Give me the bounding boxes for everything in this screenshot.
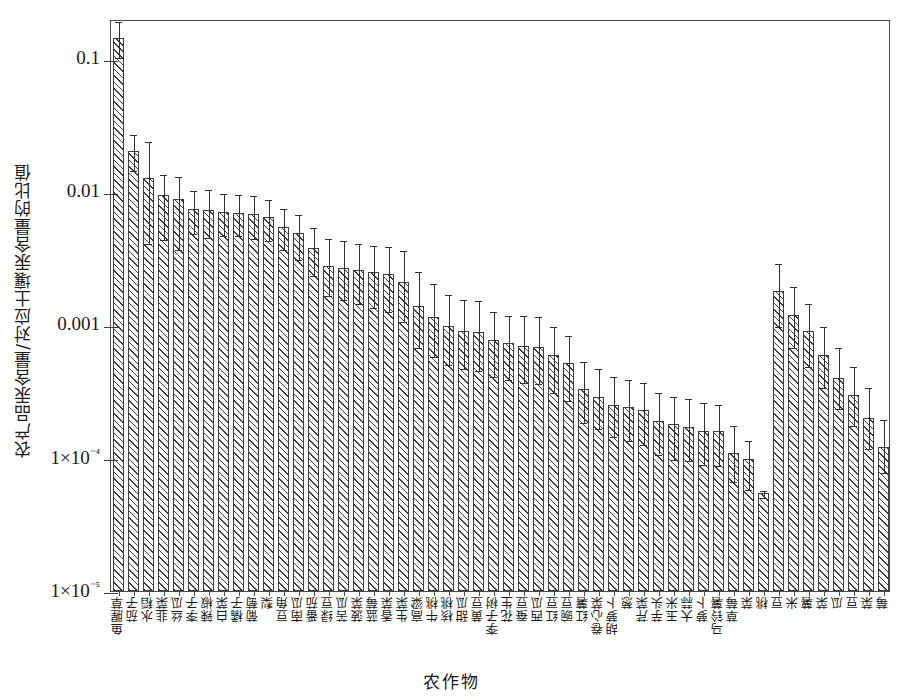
x-category-label: 鱼腥草 [112,596,125,635]
error-bar-cap-lower [775,327,782,328]
bar [428,317,440,591]
error-bar-cap-lower [865,449,872,450]
error-bar-cap-upper [760,491,767,492]
bar [233,213,245,591]
error-bar-cap-upper [550,327,557,328]
error-bar-cap-lower [430,357,437,358]
error-bar-cap-lower [625,441,632,442]
x-category-label: 西瓜 [532,596,545,622]
error-bar-cap-upper [325,239,332,240]
error-bar-cap-upper [715,405,722,406]
error-bar-line [539,317,540,384]
error-bar-cap-upper [130,135,137,136]
error-bar-line [704,403,705,465]
x-category-label: 李子树 [487,596,500,635]
error-bar-line [269,200,270,241]
x-category-label: 豆 [772,596,785,609]
error-bar-cap-lower [850,426,857,427]
x-category-label: 茄子 [127,596,140,622]
error-bar-cap-lower [295,260,302,261]
x-category-label: 芋头 [652,596,665,622]
bar [263,217,275,591]
x-category-label: 蚕豆 [517,596,530,622]
error-bar-cap-lower [220,236,227,237]
error-bar-cap-lower [685,461,692,462]
x-category-label: 菜 [862,596,875,609]
error-bar-cap-upper [850,367,857,368]
error-bar-cap-lower [670,460,677,461]
x-category-label: 红豆 [547,596,560,622]
error-bar-cap-upper [835,348,842,349]
bar [803,331,815,591]
error-bar-cap-lower [250,239,257,240]
x-category-label: 卷心菜 [592,596,605,635]
x-category-label: 瓜 [832,596,845,609]
bar [128,151,140,591]
error-bar-line [224,194,225,236]
x-category-label: 草莓 [727,596,740,622]
error-bar-cap-upper [175,177,182,178]
error-bar-cap-upper [865,388,872,389]
x-category-label: 番茄 [307,596,320,622]
bar [338,268,350,591]
bar [278,227,290,591]
error-bar-line [149,142,150,244]
error-bar-line [824,327,825,388]
x-category-label: 菠菜 [352,596,365,622]
error-bar-line [719,405,720,466]
x-category-label: 菜 [817,596,830,609]
error-bar-cap-lower [190,234,197,235]
bar [248,214,260,591]
x-category-label: 胡萝卜 [607,596,620,635]
bar [158,195,170,591]
error-bar-cap-upper [250,196,257,197]
y-tick-mark-inner [111,194,118,195]
error-bar-cap-upper [145,142,152,143]
error-bar-line [869,388,870,450]
error-bar-cap-upper [190,191,197,192]
x-category-label: 玉米 [667,596,680,622]
error-bar-cap-upper [700,403,707,404]
error-bar-cap-upper [520,316,527,317]
error-bar-cap-upper [280,209,287,210]
error-bar-cap-upper [220,194,227,195]
error-bar-cap-upper [670,397,677,398]
error-bar-line [254,196,255,238]
x-category-label: 萝卜 [697,596,710,622]
error-bar-line [359,244,360,303]
error-bar-cap-lower [880,473,887,474]
error-bar-line [164,175,165,241]
error-bar-cap-lower [355,304,362,305]
error-bar-cap-lower [505,380,512,381]
x-category-label: 韭菜 [157,596,170,622]
x-category-label: 莓 [877,596,890,609]
error-bar-cap-lower [130,171,137,172]
x-category-label: 水稻 [142,596,155,622]
bar [203,210,215,591]
error-bar-line [524,316,525,382]
x-category-label: 高粱 [412,596,425,622]
error-bar-cap-lower [730,482,737,483]
bar [218,212,230,591]
error-bar-cap-upper [415,272,422,273]
x-category-label: 米 [787,596,800,609]
error-bar-line [839,348,840,410]
error-bar-cap-upper [790,287,797,288]
bar [383,274,395,591]
error-bar-cap-upper [505,316,512,317]
error-bar-cap-lower [820,388,827,389]
error-bar-cap-upper [610,377,617,378]
error-bar-cap-upper [370,246,377,247]
x-category-label: 花生 [502,596,515,622]
bar [398,282,410,591]
x-category-label: 核桃 [442,596,455,622]
y-axis-title: 农产品汞含量/对应土壤汞含量的比值 [2,0,42,620]
error-bar-line [179,177,180,250]
error-bar-line [599,369,600,429]
error-bar-cap-lower [550,393,557,394]
bar [293,233,305,591]
error-bar-line [329,239,330,296]
error-bar-line [344,241,345,299]
error-bar-cap-lower [520,383,527,384]
error-bar-line [779,264,780,327]
